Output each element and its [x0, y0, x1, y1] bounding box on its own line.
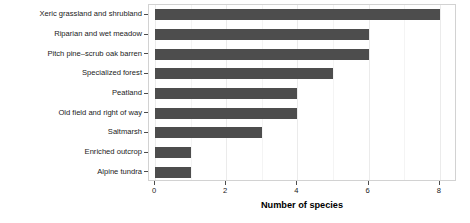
- y-axis-tick: [144, 171, 148, 172]
- y-axis-tick: [144, 14, 148, 15]
- x-axis-tick-label: 4: [284, 186, 308, 195]
- x-axis-tick-label: 2: [213, 186, 237, 195]
- bar[interactable]: [155, 49, 369, 60]
- bar-track: [149, 167, 455, 178]
- y-axis-tick: [144, 53, 148, 54]
- bar-track: [149, 108, 455, 119]
- y-axis-tick: [144, 112, 148, 113]
- x-axis-tick: [154, 181, 155, 185]
- y-axis-tick-label: Enriched outcrop: [85, 147, 142, 156]
- x-axis-tick: [368, 181, 369, 185]
- x-axis-tick: [296, 181, 297, 185]
- y-axis-tick: [144, 34, 148, 35]
- bar-chart: Number of species Xeric grassland and sh…: [0, 0, 470, 223]
- x-axis-tick-label: 6: [356, 186, 380, 195]
- bar[interactable]: [155, 147, 191, 158]
- plot-panel: [148, 4, 456, 181]
- bar-track: [149, 49, 455, 60]
- bar[interactable]: [155, 68, 333, 79]
- y-axis-tick: [144, 152, 148, 153]
- x-axis-tick-label: 0: [142, 186, 166, 195]
- y-axis-tick-label: Alpine tundra: [97, 167, 142, 176]
- bar[interactable]: [155, 167, 191, 178]
- y-axis-tick-label: Riparian and wet meadow: [54, 29, 142, 38]
- bar[interactable]: [155, 29, 369, 40]
- x-axis-tick: [439, 181, 440, 185]
- bar-track: [149, 9, 455, 20]
- x-axis-tick-label: 8: [427, 186, 451, 195]
- y-axis-tick: [144, 73, 148, 74]
- bar[interactable]: [155, 9, 440, 20]
- y-axis-tick-label: Specialized forest: [82, 68, 142, 77]
- y-axis-tick: [144, 132, 148, 133]
- y-axis-tick-label: Saltmarsh: [108, 127, 142, 136]
- bar[interactable]: [155, 127, 262, 138]
- bar-track: [149, 88, 455, 99]
- bar[interactable]: [155, 108, 297, 119]
- bar-track: [149, 127, 455, 138]
- x-axis-tick: [225, 181, 226, 185]
- y-axis-tick-label: Peatland: [112, 88, 142, 97]
- y-axis-tick: [144, 93, 148, 94]
- x-axis-title: Number of species: [148, 200, 456, 210]
- bar-track: [149, 68, 455, 79]
- bar-track: [149, 29, 455, 40]
- y-axis-tick-label: Xeric grassland and shrubland: [39, 9, 142, 18]
- bar-track: [149, 147, 455, 158]
- y-axis-tick-label: Old field and right of way: [58, 108, 142, 117]
- y-axis-tick-label: Pitch pine–scrub oak barren: [47, 49, 142, 58]
- bar[interactable]: [155, 88, 297, 99]
